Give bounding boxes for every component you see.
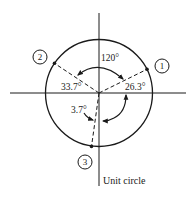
point-1-marker: 1: [155, 59, 169, 73]
unit-circle-diagram: 120° 26.3° 33.7° 3.7° 2 1 3 Unit circle: [0, 0, 193, 197]
arc-bottom-right: [103, 118, 114, 121]
point-2-dot: [53, 62, 57, 66]
point-2-label: 2: [38, 52, 43, 62]
arc-120-top: [78, 67, 123, 79]
angle-label-3-7: 3.7°: [71, 105, 87, 115]
point-3-label: 3: [83, 157, 88, 167]
point-2-marker: 2: [33, 50, 47, 64]
angle-label-120: 120°: [101, 53, 119, 63]
diagram-canvas: 120° 26.3° 33.7° 3.7° 2 1 3 Unit circle: [0, 0, 193, 197]
unit-circle-caption: Unit circle: [103, 175, 146, 186]
arc-right-lower: [114, 95, 126, 118]
point-1-dot: [145, 68, 149, 72]
point-1-label: 1: [160, 61, 165, 71]
point-3-dot: [90, 145, 94, 149]
point-3-marker: 3: [78, 155, 92, 169]
angle-label-33-7: 33.7°: [61, 82, 82, 92]
angle-label-26-3: 26.3°: [125, 82, 146, 92]
